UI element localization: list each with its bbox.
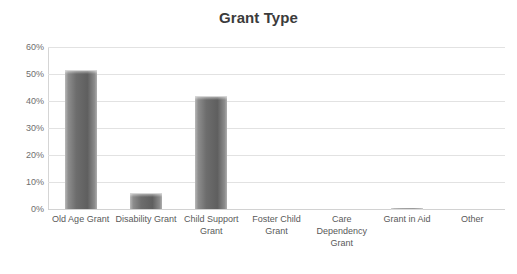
bar-slot — [179, 47, 244, 209]
plot-area — [48, 47, 505, 209]
x-axis-category-labels: Old Age GrantDisability GrantChild Suppo… — [48, 213, 505, 271]
gridline — [48, 209, 505, 210]
x-axis-category-label: Other — [440, 213, 505, 225]
bar[interactable] — [65, 70, 97, 209]
x-axis-category-label: Child Support Grant — [179, 213, 244, 237]
bar-slot — [244, 47, 309, 209]
x-axis-category-label: Foster Child Grant — [244, 213, 309, 237]
y-axis-tick-label: 60% — [2, 42, 44, 52]
bar[interactable] — [130, 193, 162, 209]
x-axis-category-label: Grant in Aid — [374, 213, 439, 225]
x-axis-category-label: Disability Grant — [113, 213, 178, 225]
bar-slot — [374, 47, 439, 209]
x-axis-category-label: Old Age Grant — [48, 213, 113, 225]
y-axis-tick-label: 20% — [2, 150, 44, 160]
y-axis-tick-labels: 0%10%20%30%40%50%60% — [0, 47, 44, 209]
bar-slot — [309, 47, 374, 209]
bar-slot — [48, 47, 113, 209]
y-axis-tick-label: 10% — [2, 177, 44, 187]
y-axis-tick-label: 50% — [2, 69, 44, 79]
y-axis-tick-label: 0% — [2, 204, 44, 214]
bar[interactable] — [391, 208, 423, 209]
y-axis-tick-label: 40% — [2, 96, 44, 106]
bar-chart: Grant Type 0%10%20%30%40%50%60% Old Age … — [0, 0, 517, 274]
bar[interactable] — [195, 96, 227, 209]
x-axis-category-label: Care Dependency Grant — [309, 213, 374, 249]
y-axis-tick-label: 30% — [2, 123, 44, 133]
bar-slot — [440, 47, 505, 209]
chart-title: Grant Type — [0, 9, 517, 26]
bar-slot — [113, 47, 178, 209]
